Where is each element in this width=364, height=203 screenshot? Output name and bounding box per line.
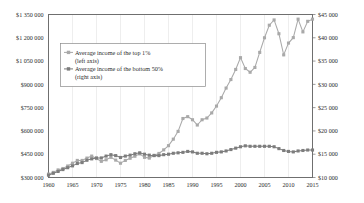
data-point-marker — [90, 157, 93, 160]
right-tick-label-5: $35 000 — [318, 58, 338, 64]
data-point-marker — [306, 148, 309, 151]
x-tick-label-1985: 1985 — [162, 182, 174, 188]
data-point-marker — [263, 36, 266, 39]
data-point-marker — [186, 115, 189, 118]
data-point-marker — [181, 151, 184, 154]
data-point-marker — [181, 117, 184, 120]
data-point-marker — [114, 154, 117, 157]
data-point-marker — [105, 158, 108, 161]
data-point-marker — [225, 149, 228, 152]
data-point-marker — [282, 53, 285, 56]
data-point-marker — [124, 159, 127, 162]
right-tick-label-4: $30 000 — [318, 82, 338, 88]
data-point-marker — [297, 18, 300, 21]
data-point-marker — [253, 145, 256, 148]
right-tick-label-2: $20 000 — [318, 128, 338, 134]
right-tick-label-7: $45 000 — [318, 12, 338, 18]
data-point-marker — [239, 56, 242, 59]
data-point-marker — [196, 123, 199, 126]
data-point-marker — [119, 162, 122, 165]
data-point-marker — [157, 154, 160, 157]
chart-legend: Average income of the top 1%(left axis)A… — [61, 44, 206, 87]
left-tick-label-0: $300 000 — [21, 175, 44, 181]
data-point-marker — [167, 153, 170, 156]
data-point-marker — [90, 155, 93, 158]
data-point-marker — [191, 150, 194, 153]
data-point-marker — [129, 157, 132, 160]
data-point-marker — [225, 87, 228, 90]
left-tick-label-2: $600 000 — [21, 128, 44, 134]
data-point-marker — [143, 156, 146, 159]
data-point-marker — [143, 153, 146, 156]
data-point-marker — [196, 152, 199, 155]
data-point-marker — [201, 152, 204, 155]
data-point-marker — [162, 148, 165, 151]
data-point-marker — [215, 151, 218, 154]
data-point-marker — [306, 20, 309, 23]
right-tick-label-0: $10 000 — [318, 175, 338, 181]
x-tick-label-2005: 2005 — [258, 182, 270, 188]
legend-label: Average income of the top 1% — [75, 49, 150, 56]
data-point-marker — [148, 157, 151, 160]
left-tick-label-3: $750 000 — [21, 105, 44, 111]
data-point-marker — [153, 154, 156, 157]
data-point-marker — [148, 154, 151, 157]
data-point-marker — [263, 145, 266, 148]
legend-marker-square — [67, 51, 70, 54]
data-point-marker — [138, 151, 141, 154]
right-tick-label-1: $15 000 — [318, 151, 338, 157]
data-point-marker — [172, 138, 175, 141]
data-point-marker — [282, 149, 285, 152]
data-point-marker — [162, 153, 165, 156]
data-point-marker — [172, 152, 175, 155]
data-point-marker — [133, 152, 136, 155]
x-tick-label-1965: 1965 — [66, 182, 78, 188]
data-point-marker — [249, 145, 252, 148]
left-tick-label-7: $1 350 000 — [16, 12, 43, 18]
data-point-marker — [210, 152, 213, 155]
data-point-marker — [244, 67, 247, 70]
left-tick-label-6: $1 200 000 — [16, 35, 43, 41]
data-point-marker — [234, 68, 237, 71]
data-point-marker — [268, 24, 271, 27]
data-point-marker — [249, 71, 252, 74]
data-point-marker — [177, 151, 180, 154]
data-point-marker — [85, 159, 88, 162]
data-point-marker — [268, 145, 271, 148]
data-point-marker — [258, 51, 261, 54]
data-point-marker — [234, 147, 237, 150]
data-point-marker — [311, 18, 314, 21]
data-point-marker — [253, 66, 256, 69]
left-tick-label-4: $900 000 — [21, 82, 44, 88]
data-point-marker — [177, 130, 180, 133]
right-tick-label-3: $25 000 — [318, 105, 338, 111]
data-point-marker — [66, 166, 69, 169]
data-point-marker — [273, 145, 276, 148]
data-point-marker — [258, 145, 261, 148]
data-point-marker — [57, 170, 60, 173]
data-point-marker — [205, 116, 208, 119]
data-point-marker — [47, 174, 50, 177]
data-point-marker — [220, 96, 223, 99]
data-point-marker — [71, 164, 74, 167]
data-point-marker — [292, 36, 295, 39]
data-point-marker — [186, 150, 189, 153]
data-point-marker — [76, 159, 79, 162]
legend-marker-square — [67, 67, 70, 70]
data-point-marker — [105, 155, 108, 158]
left-tick-label-1: $450 000 — [21, 151, 44, 157]
data-point-marker — [277, 147, 280, 150]
legend-label: Average income of the bottom 50% — [75, 65, 163, 72]
data-point-marker — [220, 150, 223, 153]
data-point-marker — [95, 156, 98, 159]
data-point-marker — [244, 144, 247, 147]
data-point-marker — [215, 105, 218, 108]
data-point-marker — [124, 155, 127, 158]
data-point-marker — [239, 145, 242, 148]
data-point-marker — [287, 150, 290, 153]
data-point-marker — [287, 42, 290, 45]
data-point-marker — [201, 118, 204, 121]
data-point-marker — [61, 168, 64, 171]
data-point-marker — [52, 172, 55, 175]
data-point-marker — [129, 154, 132, 157]
